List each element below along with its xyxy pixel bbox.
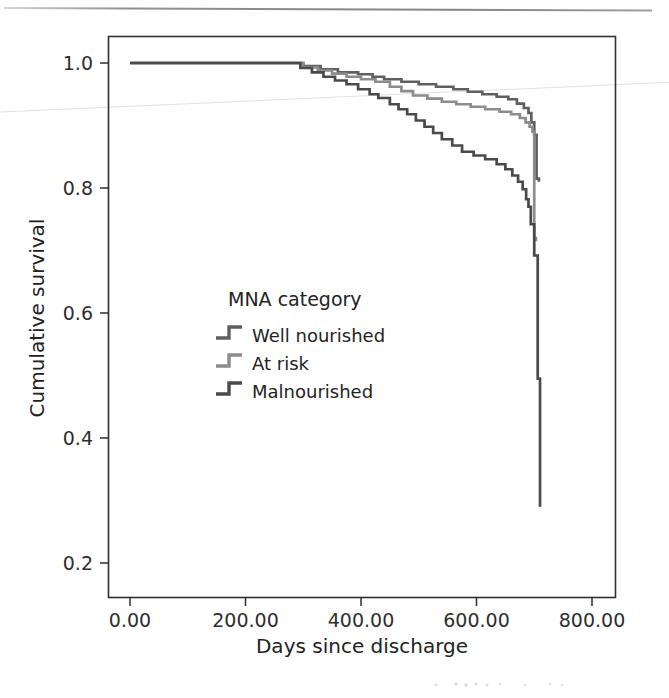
legend-swatch-malnourished	[216, 383, 242, 394]
legend-items-group: Well nourishedAt riskMalnourished	[216, 325, 385, 402]
x-axis-ticks: 0.00200.00400.00600.00800.00	[109, 598, 625, 632]
km-curves-group	[130, 63, 540, 507]
y-tick-label: 0.8	[63, 177, 93, 199]
x-tick-label: 400.00	[328, 609, 394, 631]
chart-legend: MNA category Well nourishedAt riskMalnou…	[216, 288, 385, 402]
y-tick-label: 0.2	[63, 552, 93, 574]
legend-swatch-at-risk	[216, 355, 242, 366]
x-axis-title: Days since discharge	[256, 634, 468, 658]
y-tick-label: 1.0	[63, 52, 93, 74]
x-tick-label: 600.00	[443, 609, 509, 631]
legend-label-well-nourished: Well nourished	[252, 325, 385, 346]
x-tick-label: 200.00	[212, 609, 278, 631]
x-tick-label: 0.00	[109, 609, 151, 631]
legend-label-at-risk: At risk	[252, 353, 310, 374]
km-curve-malnourished	[130, 63, 540, 507]
legend-title: MNA category	[228, 288, 362, 310]
y-axis-ticks: 0.20.40.60.81.0	[63, 52, 109, 574]
y-tick-label: 0.4	[63, 427, 93, 449]
x-tick-label: 800.00	[559, 609, 625, 631]
y-axis-title: Cumulative survival	[25, 219, 49, 418]
legend-label-malnourished: Malnourished	[252, 381, 373, 402]
legend-swatch-well-nourished	[216, 327, 242, 338]
y-tick-label: 0.6	[63, 302, 93, 324]
plot-frame	[109, 37, 616, 598]
km-curve-at-risk	[130, 63, 536, 241]
